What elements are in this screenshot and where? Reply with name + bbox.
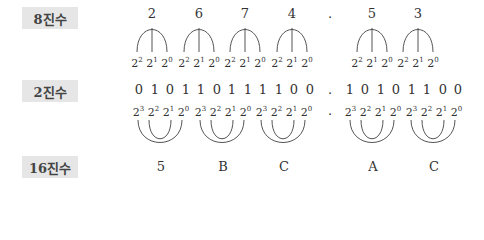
- binary-bit: 1: [244, 82, 252, 97]
- binary-bit: 1: [151, 82, 159, 97]
- binary-bit: 1: [408, 82, 416, 97]
- binary-bit: 1: [346, 82, 354, 97]
- weight-group: 23 22 21 20: [195, 105, 251, 119]
- binary-bit: 0: [166, 82, 174, 97]
- hex-weights-point: .: [328, 103, 332, 118]
- binary-bit: 0: [454, 82, 462, 97]
- binary-bit: 0: [439, 82, 447, 97]
- binary-bit: 1: [228, 82, 236, 97]
- binary-bit: 1: [423, 82, 431, 97]
- hex-digit: C: [279, 159, 289, 174]
- weight-group: 22 21 20: [178, 56, 219, 70]
- binary-bit: 0: [213, 82, 221, 97]
- binary-bit: 0: [290, 82, 298, 97]
- binary-point: .: [328, 82, 332, 97]
- weight-group: 22 21 20: [397, 56, 438, 70]
- weight-group: 23 22 21 20: [345, 105, 401, 119]
- weight-group: 23 22 21 20: [133, 105, 189, 119]
- binary-bit: 1: [377, 82, 385, 97]
- weight-group: 22 21 20: [351, 56, 392, 70]
- binary-bit: 0: [306, 82, 314, 97]
- hex-digit: 5: [157, 159, 165, 174]
- weight-group: 22 21 20: [131, 56, 172, 70]
- binary-bit: 1: [259, 82, 267, 97]
- hex-digit: A: [368, 159, 377, 174]
- weight-group: 22 21 20: [271, 56, 312, 70]
- weight-group: 23 22 21 20: [256, 105, 312, 119]
- hex-digit: C: [429, 159, 439, 174]
- binary-bit: 1: [197, 82, 205, 97]
- binary-bit: 0: [361, 82, 369, 97]
- binary-bit: 1: [275, 82, 283, 97]
- binary-bit: 0: [135, 82, 143, 97]
- binary-bit: 1: [182, 82, 190, 97]
- weight-group: 23 22 21 20: [406, 105, 462, 119]
- hex-digit: B: [218, 159, 228, 174]
- weight-group: 22 21 20: [224, 56, 265, 70]
- binary-bit: 0: [392, 82, 400, 97]
